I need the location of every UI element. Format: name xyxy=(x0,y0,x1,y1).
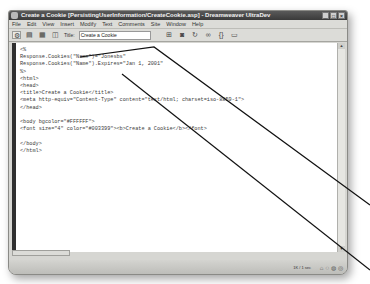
menu-site[interactable]: Site xyxy=(151,20,160,28)
reference-icon[interactable]: ∞ xyxy=(204,31,213,39)
code-inspector-icon[interactable]: ◎ xyxy=(338,265,343,271)
code-nav-icon[interactable]: {} xyxy=(217,31,226,39)
code-line: </body> xyxy=(20,141,337,148)
document-toolbar: ⚙ ▤ ▦ ◫ Title: Create a Cookie ⊞ ◙ ↻ ∞ {… xyxy=(9,29,347,42)
file-management-icon[interactable]: ⊞ xyxy=(165,31,174,39)
view-options-icon[interactable]: ▭ xyxy=(230,31,239,39)
refresh-icon[interactable]: ↻ xyxy=(191,31,200,39)
code-line: </head> xyxy=(20,105,337,112)
download-size: 1K / 1 sec xyxy=(293,265,311,270)
title-bar: Create a Cookie [PersistingUserInformati… xyxy=(9,11,347,20)
menu-help[interactable]: Help xyxy=(192,20,203,28)
split-view-icon[interactable]: ▤ xyxy=(25,31,34,39)
menu-modify[interactable]: Modify xyxy=(80,20,96,28)
code-line: </html> xyxy=(20,148,337,155)
close-button[interactable]: × xyxy=(338,12,345,19)
code-line: <head> xyxy=(20,83,337,90)
code-line: <font size="4" color="#003399"><b>Create… xyxy=(20,126,337,133)
assets-icon[interactable]: ◌ xyxy=(325,265,329,271)
design-view-icon[interactable]: ▦ xyxy=(38,31,47,39)
title-label: Title: xyxy=(64,32,75,38)
live-data-icon[interactable]: ◫ xyxy=(51,31,60,39)
code-line: %> xyxy=(20,69,337,76)
code-line: <html> xyxy=(20,76,337,83)
code-view-icon[interactable]: ⚙ xyxy=(12,31,21,39)
launcher-icons: ⌂ ◌ ◍ ◎ xyxy=(320,265,343,271)
minimize-button[interactable]: _ xyxy=(322,12,329,19)
horizontal-scrollbar[interactable] xyxy=(12,250,70,256)
code-line: <body bgcolor="#FFFFFF"> xyxy=(20,119,337,126)
app-icon xyxy=(11,12,18,19)
scroll-up-icon[interactable]: ▲ xyxy=(338,43,345,49)
menu-view[interactable]: View xyxy=(42,20,54,28)
behaviors-icon[interactable]: ◍ xyxy=(331,265,336,271)
site-icon[interactable]: ⌂ xyxy=(320,265,324,271)
menu-insert[interactable]: Insert xyxy=(60,20,74,28)
window-title: Create a Cookie [PersistingUserInformati… xyxy=(21,12,270,18)
dreamweaver-window: Create a Cookie [PersistingUserInformati… xyxy=(8,10,348,275)
code-line: <meta http-equiv="Content-Type" content=… xyxy=(20,97,337,104)
code-line: ​ xyxy=(20,133,337,140)
window-controls: _ □ × xyxy=(322,12,345,19)
menu-bar: File Edit View Insert Modify Text Commen… xyxy=(9,20,347,29)
code-editor[interactable]: <%Response.Cookies("Name")="Jonesbs"Resp… xyxy=(16,43,337,155)
status-bar: 1K / 1 sec ⌂ ◌ ◍ ◎ xyxy=(9,260,347,274)
maximize-button[interactable]: □ xyxy=(330,12,337,19)
scroll-down-icon[interactable]: ▼ xyxy=(338,246,345,252)
code-line: ​ xyxy=(20,112,337,119)
code-line: Response.Cookies("Name")="Jonesbs" xyxy=(20,54,337,61)
preview-icon[interactable]: ◙ xyxy=(178,31,187,39)
code-view[interactable]: <%Response.Cookies("Name")="Jonesbs"Resp… xyxy=(12,43,337,252)
menu-window[interactable]: Window xyxy=(166,20,186,28)
code-line: Response.Cookies("Name").Expires="Jan 1,… xyxy=(20,61,337,68)
code-line: <% xyxy=(20,47,337,54)
menu-text[interactable]: Text xyxy=(102,20,112,28)
page-title-input[interactable]: Create a Cookie xyxy=(79,31,151,40)
vertical-scrollbar[interactable]: ▲ ▼ xyxy=(337,43,345,252)
menu-comments[interactable]: Comments xyxy=(118,20,145,28)
menu-file[interactable]: File xyxy=(12,20,21,28)
menu-edit[interactable]: Edit xyxy=(27,20,36,28)
code-line: <title>Create a Cookie</title> xyxy=(20,90,337,97)
